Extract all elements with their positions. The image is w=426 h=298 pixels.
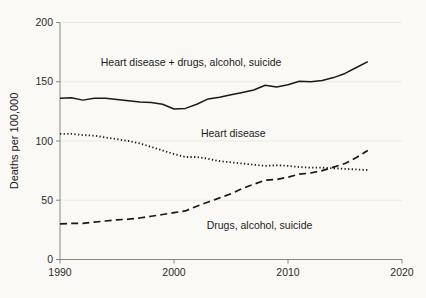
- gridlines: [60, 23, 402, 201]
- y-tick-label: 200: [35, 16, 53, 28]
- y-tick-label: 100: [35, 135, 53, 147]
- y-axis-title: Deaths per 100,000: [8, 93, 20, 190]
- y-tick-label: 0: [47, 253, 53, 265]
- y-axis: 050100150200: [35, 16, 60, 265]
- x-tick-label: 2010: [276, 266, 300, 278]
- series-line-2: [60, 150, 368, 223]
- y-tick-label: 50: [41, 194, 53, 206]
- series-annotation-2: Drugs, alcohol, suicide: [207, 219, 313, 231]
- x-tick-label: 2020: [390, 266, 414, 278]
- series-line-0: [60, 62, 368, 109]
- x-axis: 1990200020102020: [48, 260, 414, 278]
- x-tick-label: 2000: [162, 266, 186, 278]
- y-tick-label: 150: [35, 75, 53, 87]
- line-chart: 050100150200 1990200020102020 Heart dise…: [0, 0, 426, 298]
- series-annotation-0: Heart disease + drugs, alcohol, suicide: [101, 56, 282, 68]
- series-labels: Heart disease + drugs, alcohol, suicideH…: [101, 56, 313, 230]
- series-paths: [60, 62, 368, 224]
- x-tick-label: 1990: [48, 266, 72, 278]
- chart-container: 050100150200 1990200020102020 Heart dise…: [0, 0, 426, 298]
- series-annotation-1: Heart disease: [201, 127, 266, 139]
